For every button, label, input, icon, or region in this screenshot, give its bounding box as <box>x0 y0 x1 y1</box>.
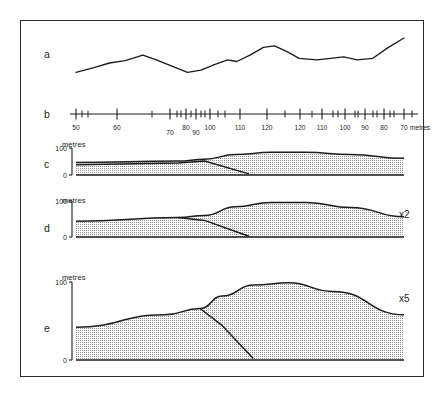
unit-label-d: metres <box>62 196 86 205</box>
panel-letter-e: e <box>44 322 50 334</box>
exaggeration-label-e: x5 <box>399 293 410 304</box>
figure-root: a b 5060708090100110120120110100908070me… <box>0 0 447 399</box>
unit-label-c: metres <box>62 140 86 149</box>
unit-label-e: metres <box>62 273 86 282</box>
panel-letter-b: b <box>44 108 50 120</box>
panel-letter-c: c <box>44 158 49 170</box>
panel-letter-d: d <box>44 222 50 234</box>
panel-letter-a: a <box>44 48 50 60</box>
exaggeration-label-d: x2 <box>399 209 410 220</box>
